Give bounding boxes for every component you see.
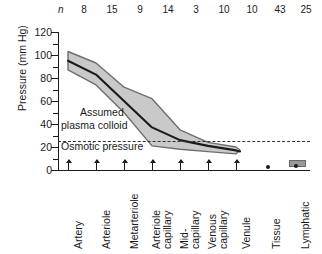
x-axis-label-lymphatic: Lymphatic <box>299 202 311 249</box>
range-band <box>68 52 240 154</box>
x-axis-label-tissue: Tissue <box>270 218 282 249</box>
x-axis-label-artery: Artery <box>72 221 84 249</box>
annotation-osmotic-pressure: Osmotic pressure <box>61 140 143 152</box>
pressure-profile-chart: n 8 15 9 14 3 10 10 43 25 Pressure (mm H… <box>0 0 322 254</box>
annotation-assumed: Assumed <box>80 106 124 118</box>
lymphatic-data-point <box>294 164 298 168</box>
x-axis-label-venule: Venule <box>240 217 252 249</box>
x-axis-label-mid-capillary-line2: capillary <box>189 210 201 249</box>
annotation-plasma-colloid: plasma colloid <box>61 119 128 131</box>
x-axis-label-arteriole: Arteriole <box>100 210 112 249</box>
x-axis-label-venous-capillary-line2: capillary <box>217 210 229 249</box>
tissue-data-point <box>266 165 270 169</box>
x-axis-label-metarteriole: Metarteriole <box>128 194 140 249</box>
x-axis-label-arteriole-capillary-line2: capillary <box>161 210 173 249</box>
